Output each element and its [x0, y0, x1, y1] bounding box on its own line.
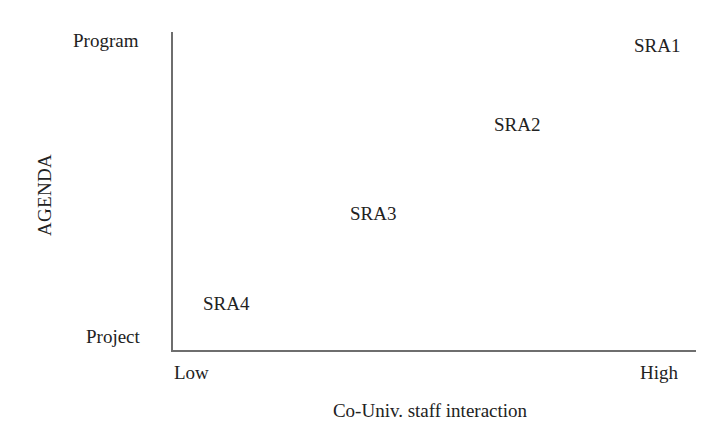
y-axis-line [171, 32, 173, 352]
x-axis-line [171, 350, 696, 352]
y-axis-title: AGENDA [34, 154, 56, 236]
point-sra3: SRA3 [350, 203, 396, 225]
point-sra2: SRA2 [494, 114, 540, 136]
x-axis-title: Co-Univ. staff interaction [333, 400, 527, 422]
y-tick-bottom: Project [86, 326, 140, 348]
point-sra4: SRA4 [203, 293, 249, 315]
x-tick-right: High [640, 362, 678, 384]
y-tick-top: Program [73, 30, 138, 52]
point-sra1: SRA1 [634, 35, 680, 57]
x-tick-left: Low [174, 362, 209, 384]
